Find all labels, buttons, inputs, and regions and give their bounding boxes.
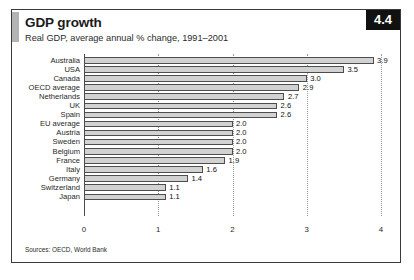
bar	[84, 194, 166, 201]
chart-row: France1.9	[12, 156, 402, 165]
category-label: Australia	[50, 57, 80, 65]
bar-value-label: 2.6	[281, 111, 292, 119]
category-label: France	[56, 157, 80, 165]
bar	[84, 75, 307, 82]
bar	[84, 139, 233, 146]
bar-value-label: 2.0	[236, 120, 247, 128]
x-tick-label-1: 1	[156, 226, 160, 234]
bar-value-label: 3.5	[347, 66, 358, 74]
category-label: Spain	[61, 111, 80, 119]
source-note: Sources: OECD, World Bank	[25, 246, 107, 253]
title-accent-bar	[12, 12, 19, 42]
chart-row: Canada3.0	[12, 74, 402, 83]
bar-value-label: 2.0	[236, 148, 247, 156]
bar	[84, 84, 299, 91]
category-label: Italy	[66, 166, 80, 174]
bar-value-label: 1.1	[169, 184, 180, 192]
category-label: Japan	[59, 193, 80, 201]
category-label: Belgium	[53, 148, 80, 156]
category-label: Canada	[53, 75, 80, 83]
chart-row: Sweden2.0	[12, 138, 402, 147]
bar-value-label: 1.1	[169, 193, 180, 201]
bar	[84, 157, 225, 164]
category-label: EU average	[40, 120, 80, 128]
bar-value-label: 1.9	[229, 157, 240, 165]
bar	[84, 57, 374, 64]
category-label: Germany	[49, 175, 80, 183]
chart-row: USA3.5	[12, 65, 402, 74]
chart-row: Switzerland1.1	[12, 183, 402, 192]
bar	[84, 66, 344, 73]
category-label: UK	[69, 102, 80, 110]
category-label: Sweden	[53, 139, 80, 147]
category-label: OECD average	[29, 84, 81, 92]
bar-value-label: 3.0	[310, 75, 321, 83]
bar-value-label: 3.9	[377, 57, 388, 65]
chart-row: Italy1.6	[12, 165, 402, 174]
chart-row: Austria2.0	[12, 129, 402, 138]
bar-value-label: 2.6	[281, 102, 292, 110]
chart-row: Belgium2.0	[12, 147, 402, 156]
chart-row: OECD average2.9	[12, 83, 402, 92]
bar	[84, 93, 284, 100]
x-tick-label-2: 2	[230, 226, 234, 234]
chart-row: Netherlands2.7	[12, 92, 402, 101]
bar	[84, 121, 233, 128]
category-label: Switzerland	[41, 184, 80, 192]
x-tick-label-3: 3	[305, 226, 309, 234]
page-title: GDP growth	[25, 15, 102, 30]
bar	[84, 130, 233, 137]
bar	[84, 166, 203, 173]
figure-number-badge: 4.4	[366, 10, 400, 30]
x-tick-label-0: 0	[82, 226, 86, 234]
bar	[84, 175, 188, 182]
chart-row: Australia3.9	[12, 56, 402, 65]
chart-row: Germany1.4	[12, 174, 402, 183]
x-tick-label-4: 4	[379, 226, 383, 234]
figure-panel: GDP growth Real GDP, average annual % ch…	[11, 9, 401, 263]
category-label: USA	[64, 66, 80, 74]
bar	[84, 103, 277, 110]
bar	[84, 184, 166, 191]
bar-value-label: 2.9	[303, 84, 314, 92]
bar-value-label: 2.0	[236, 139, 247, 147]
category-label: Austria	[56, 130, 80, 138]
bar	[84, 112, 277, 119]
chart-plot-area: Australia3.9USA3.5Canada3.0OECD average2…	[12, 54, 402, 226]
bar-value-label: 1.4	[191, 175, 202, 183]
chart-row: Japan1.1	[12, 193, 402, 202]
chart-row: EU average2.0	[12, 120, 402, 129]
bar	[84, 148, 233, 155]
x-axis-tick-labels: 01234	[12, 226, 402, 240]
chart-subtitle: Real GDP, average annual % change, 1991–…	[25, 33, 228, 43]
bar-value-label: 1.6	[206, 166, 217, 174]
bar-value-label: 2.0	[236, 130, 247, 138]
figure-header: GDP growth Real GDP, average annual % ch…	[12, 10, 400, 54]
chart-row: Spain2.6	[12, 111, 402, 120]
category-label: Netherlands	[39, 93, 80, 101]
bar-value-label: 2.7	[288, 93, 299, 101]
chart-row: UK2.6	[12, 102, 402, 111]
